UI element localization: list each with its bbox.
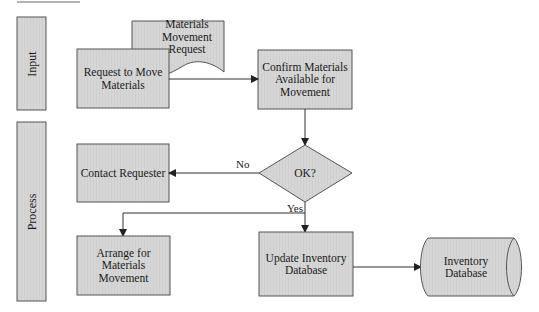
update-inventory-box[interactable] — [259, 232, 353, 296]
contact-requester-box[interactable] — [77, 144, 169, 202]
edge-label-no: No — [236, 158, 249, 170]
ok-decision-diamond[interactable] — [259, 145, 352, 202]
lane-process-label: Process — [25, 182, 39, 242]
confirm-materials-box[interactable] — [258, 50, 352, 109]
edge-label-yes: Yes — [287, 202, 303, 214]
flowchart-canvas: Input Process Materials Movement Request… — [0, 0, 539, 312]
flowchart-svg — [0, 0, 539, 312]
lane-input-label: Input — [25, 34, 39, 94]
request-to-move-box[interactable] — [77, 49, 169, 108]
arrange-movement-box[interactable] — [77, 236, 170, 295]
